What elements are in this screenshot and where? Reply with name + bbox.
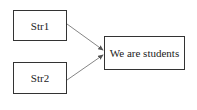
- arrow-str1-to-result: [67, 24, 103, 50]
- node-str2-label: Str2: [31, 72, 49, 84]
- node-str1-label: Str1: [31, 20, 49, 32]
- node-str1: Str1: [13, 10, 67, 41]
- node-result-label: We are students: [110, 47, 179, 59]
- node-result: We are students: [104, 36, 185, 70]
- arrow-str2-to-result: [67, 55, 103, 80]
- node-str2: Str2: [13, 62, 67, 94]
